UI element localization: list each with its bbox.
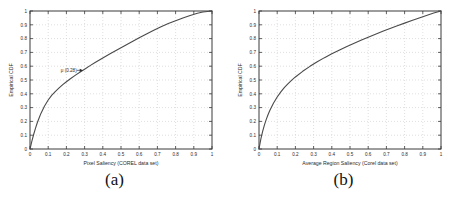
- x-tick-label: 0.5: [347, 152, 354, 157]
- x-tick-label: 0.7: [154, 152, 161, 157]
- y-tick-label: 0.8: [21, 36, 28, 41]
- y-tick-label: 0: [253, 147, 256, 152]
- y-tick-label: 0.3: [21, 105, 28, 110]
- x-tick-label: 0.8: [401, 152, 408, 157]
- x-tick-label: 0.4: [329, 152, 336, 157]
- caption-a: (a): [0, 170, 229, 190]
- y-tick-label: 1: [253, 9, 256, 14]
- x-tick-label: 0.1: [45, 152, 52, 157]
- x-axis-title: Average Region Saliency (Corel data set): [302, 160, 398, 166]
- x-tick-label: 0.3: [310, 152, 317, 157]
- x-tick-label: 0.7: [383, 152, 390, 157]
- x-tick-label: 0.5: [118, 152, 125, 157]
- y-tick-label: 0.4: [250, 92, 257, 97]
- x-tick-label: 0.6: [365, 152, 372, 157]
- x-tick-label: 1: [440, 152, 443, 157]
- chart-b-plot: 00.10.20.30.40.50.60.70.80.91Average Reg…: [229, 0, 458, 172]
- grid-lines: [30, 11, 212, 149]
- x-tick-label: 0.4: [100, 152, 107, 157]
- annotation-label: μ (0.28): [61, 68, 77, 73]
- y-axis-title: Empirical CDF: [8, 63, 14, 96]
- x-tick-label: 0.2: [292, 152, 299, 157]
- y-tick-label: 0.8: [250, 36, 257, 41]
- y-tick-label: 0.2: [21, 119, 28, 124]
- y-tick-label: 0.9: [21, 23, 28, 28]
- x-tick-label: 0.1: [274, 152, 281, 157]
- caption-b: (b): [229, 170, 458, 190]
- y-tick-label: 0.5: [21, 78, 28, 83]
- grid-lines: [259, 11, 441, 149]
- y-tick-label: 0.2: [250, 119, 257, 124]
- x-tick-label: 0.8: [172, 152, 179, 157]
- y-tick-label: 0.7: [21, 50, 28, 55]
- y-tick-label: 0: [24, 147, 27, 152]
- y-tick-label: 0.6: [250, 64, 257, 69]
- y-axis-title: Empirical CDF: [237, 63, 243, 96]
- panel-b: 00.10.20.30.40.50.60.70.80.91Average Reg…: [229, 0, 458, 209]
- y-tick-label: 0.1: [250, 133, 257, 138]
- x-axis: 00.10.20.30.40.50.60.70.80.91Pixel Salie…: [29, 11, 214, 166]
- x-tick-label: 0.6: [136, 152, 143, 157]
- x-tick-label: 0: [29, 152, 32, 157]
- panel-a: 00.10.20.30.40.50.60.70.80.91Pixel Salie…: [0, 0, 229, 209]
- figure-container: 00.10.20.30.40.50.60.70.80.91Pixel Salie…: [0, 0, 458, 209]
- x-tick-label: 0.9: [420, 152, 427, 157]
- y-tick-label: 0.3: [250, 105, 257, 110]
- y-tick-label: 0.6: [21, 64, 28, 69]
- y-axis: 00.10.20.30.40.50.60.70.80.91Empirical C…: [237, 9, 441, 152]
- y-tick-label: 1: [24, 9, 27, 14]
- y-tick-label: 0.5: [250, 78, 257, 83]
- x-axis-title: Pixel Saliency (COREL data set): [84, 160, 159, 166]
- x-tick-label: 1: [211, 152, 214, 157]
- x-tick-label: 0.9: [191, 152, 198, 157]
- x-tick-label: 0.3: [81, 152, 88, 157]
- x-axis: 00.10.20.30.40.50.60.70.80.91Average Reg…: [258, 11, 443, 166]
- chart-a-svg: 00.10.20.30.40.50.60.70.80.91Pixel Salie…: [0, 0, 229, 172]
- x-tick-label: 0: [258, 152, 261, 157]
- y-tick-label: 0.7: [250, 50, 257, 55]
- y-tick-label: 0.9: [250, 23, 257, 28]
- y-axis: 00.10.20.30.40.50.60.70.80.91Empirical C…: [8, 9, 212, 152]
- chart-a-plot: 00.10.20.30.40.50.60.70.80.91Pixel Salie…: [0, 0, 229, 172]
- y-tick-label: 0.1: [21, 133, 28, 138]
- y-tick-label: 0.4: [21, 92, 28, 97]
- chart-b-svg: 00.10.20.30.40.50.60.70.80.91Average Reg…: [229, 0, 458, 172]
- x-tick-label: 0.2: [63, 152, 70, 157]
